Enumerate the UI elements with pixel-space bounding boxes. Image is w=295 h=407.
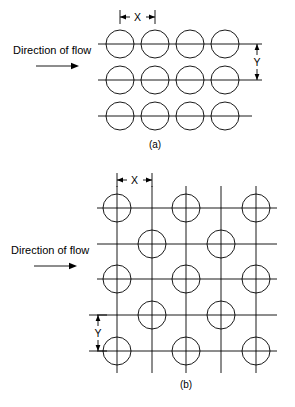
panel-a-caption: (a) (149, 139, 161, 150)
figure-root: X (0, 0, 295, 407)
right-arrow-icon (34, 263, 77, 269)
panel-b: X (11, 173, 277, 390)
panel-b-y-label: Y (94, 327, 101, 339)
panel-a-x-label: X (134, 11, 141, 23)
panel-b-horizontal-lines (97, 208, 277, 351)
panel-b-flow-label: Direction of flow (11, 244, 89, 256)
panel-b-caption: (b) (180, 379, 192, 390)
panel-a: X (13, 10, 264, 150)
tube-bundle-figure: X (0, 0, 295, 407)
panel-a-y-label: Y (253, 56, 260, 68)
panel-a-y-dimension: Y (250, 44, 264, 80)
panel-b-vertical-lines (117, 186, 256, 373)
panel-a-flow-lines (98, 44, 252, 116)
panel-a-x-dimension: X (120, 10, 155, 24)
right-arrow-icon (36, 63, 79, 69)
panel-a-flow-label: Direction of flow (13, 44, 91, 56)
panel-b-flow-indicator: Direction of flow (11, 244, 89, 269)
panel-a-flow-indicator: Direction of flow (13, 44, 91, 69)
panel-b-tubes (103, 194, 270, 365)
panel-b-x-dimension: X (117, 173, 152, 187)
panel-b-x-label: X (131, 174, 138, 186)
